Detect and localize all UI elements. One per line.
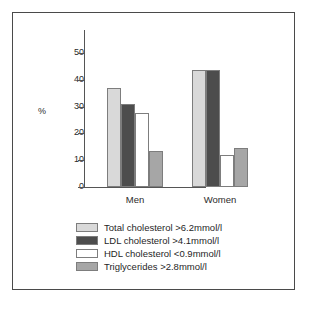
legend-item: HDL cholesterol <0.9mmol/l [76, 247, 222, 260]
legend-swatch [76, 223, 98, 232]
legend-label: Triglycerides >2.8mmol/l [104, 262, 207, 272]
bar [220, 155, 234, 187]
x-axis-line [84, 187, 206, 188]
chart-legend: Total cholesterol >6.2mmol/lLDL choleste… [76, 221, 222, 273]
y-tick-mark [78, 187, 84, 188]
bar [149, 151, 163, 187]
legend-label: Total cholesterol >6.2mmol/l [104, 223, 222, 233]
legend-item: Total cholesterol >6.2mmol/l [76, 221, 222, 234]
y-axis-label: % [38, 106, 46, 116]
y-tick-mark [78, 53, 84, 54]
y-tick-mark [78, 80, 84, 81]
category-label: Women [190, 194, 250, 205]
bar [192, 70, 206, 187]
y-tick-mark [78, 160, 84, 161]
bar [121, 104, 135, 187]
bar [234, 148, 248, 187]
legend-swatch [76, 262, 98, 271]
bars-layer [85, 30, 230, 187]
legend-swatch [76, 249, 98, 258]
bar [206, 70, 220, 187]
legend-label: HDL cholesterol <0.9mmol/l [104, 249, 221, 259]
bar [107, 88, 121, 187]
y-tick-mark [78, 133, 84, 134]
bar [135, 113, 149, 187]
legend-swatch [76, 236, 98, 245]
legend-item: LDL cholesterol >4.1mmol/l [76, 234, 222, 247]
category-label: Men [105, 194, 165, 205]
legend-item: Triglycerides >2.8mmol/l [76, 260, 222, 273]
y-tick-mark [78, 107, 84, 108]
chart-figure: % 01020304050 MenWomen Total cholesterol… [0, 0, 312, 309]
legend-label: LDL cholesterol >4.1mmol/l [104, 236, 219, 246]
